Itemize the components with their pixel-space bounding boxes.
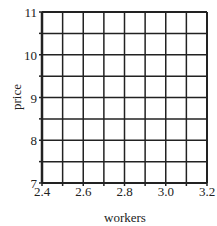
y-tick-label: 9 xyxy=(31,91,38,106)
y-axis-label: price xyxy=(9,84,24,110)
y-tick-label: 10 xyxy=(24,48,37,63)
x-tick-label: 3.0 xyxy=(158,184,174,199)
grid xyxy=(39,12,207,186)
x-axis-label: workers xyxy=(104,210,146,225)
y-tick-label: 8 xyxy=(31,133,38,148)
y-tick-label: 11 xyxy=(24,5,37,20)
x-tick-label: 2.6 xyxy=(75,184,92,199)
x-tick-label: 2.8 xyxy=(116,184,132,199)
chart: 2.42.62.83.03.27891011 workers price xyxy=(0,0,217,226)
y-tick-label: 7 xyxy=(31,176,38,191)
x-tick-label: 3.2 xyxy=(199,184,215,199)
